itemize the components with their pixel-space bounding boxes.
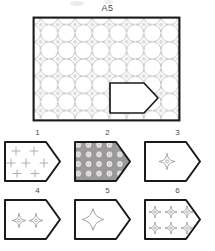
option-6-outline (145, 200, 200, 239)
option-number-6: 6 (142, 186, 213, 196)
option-card-1[interactable]: 1 (2, 128, 73, 189)
option-figure-1 (2, 139, 73, 184)
option-figure-2 (72, 139, 143, 184)
option-card-4[interactable]: 4 (2, 186, 73, 247)
option-2-circle-grid (72, 139, 143, 184)
option-figure-6 (142, 197, 213, 242)
stimulus-pattern-field (32, 16, 181, 122)
option-figure-4 (2, 197, 73, 242)
puzzle-page: A5 (0, 0, 215, 251)
option-figure-5 (72, 197, 143, 242)
option-card-6[interactable]: 6 (142, 186, 213, 247)
option-number-5: 5 (72, 186, 143, 196)
option-card-2[interactable]: 2 (72, 128, 143, 189)
option-figure-3 (142, 139, 213, 184)
option-card-5[interactable]: 5 (72, 186, 143, 247)
stimulus-panel (32, 16, 181, 122)
page-title: A5 (0, 2, 215, 14)
option-1-outline (5, 142, 60, 181)
option-number-4: 4 (2, 186, 73, 196)
options-grid: 1 2 (0, 128, 215, 251)
stimulus-figure (32, 16, 181, 122)
option-card-3[interactable]: 3 (142, 128, 213, 189)
option-number-1: 1 (2, 128, 73, 138)
option-number-2: 2 (72, 128, 143, 138)
option-number-3: 3 (142, 128, 213, 138)
